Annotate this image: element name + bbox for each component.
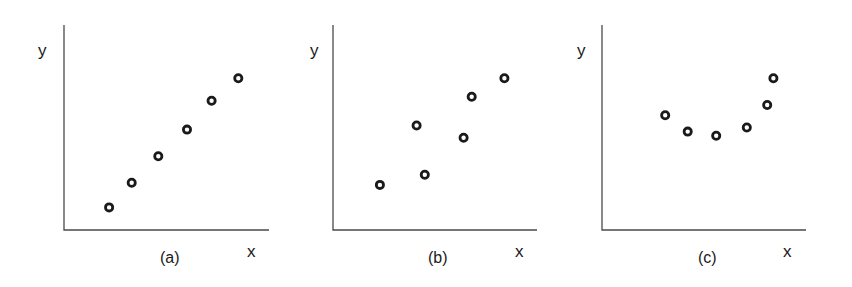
data-point-marker — [501, 75, 508, 82]
data-point-marker — [421, 171, 428, 178]
data-point-marker — [155, 153, 162, 160]
scatter-panel-a — [64, 25, 269, 230]
panel-b-y-label: y — [310, 42, 319, 59]
data-point-marker — [743, 124, 750, 131]
data-point-marker — [770, 75, 777, 82]
axes — [64, 25, 269, 230]
data-point-marker — [684, 128, 691, 135]
scatter-plots — [0, 0, 852, 287]
data-point-marker — [183, 126, 190, 133]
panel-c-y-label: y — [577, 42, 586, 59]
panel-c-caption: (c) — [698, 250, 717, 266]
data-point-marker — [764, 101, 771, 108]
panel-a-x-label: x — [247, 243, 256, 260]
data-point-marker — [128, 179, 135, 186]
panel-c-x-label: x — [783, 243, 792, 260]
panel-b-caption: (b) — [428, 250, 448, 266]
data-point-marker — [413, 122, 420, 129]
axes — [602, 25, 806, 230]
scatter-panel-b — [333, 25, 537, 230]
data-point-marker — [713, 132, 720, 139]
data-point-marker — [468, 93, 475, 100]
data-point-marker — [106, 204, 113, 211]
data-point-marker — [208, 97, 215, 104]
axes — [333, 25, 537, 230]
data-point-marker — [376, 181, 383, 188]
data-point-marker — [235, 75, 242, 82]
panel-a-caption: (a) — [160, 250, 180, 266]
panel-a-y-label: y — [38, 42, 47, 59]
scatter-panel-c — [602, 25, 806, 230]
panel-b-x-label: x — [515, 243, 524, 260]
data-point-marker — [460, 134, 467, 141]
data-point-marker — [662, 112, 669, 119]
